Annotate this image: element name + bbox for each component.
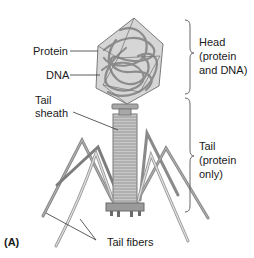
bracket-head-line2: (protein	[199, 50, 236, 62]
label-protein: Protein	[33, 45, 68, 57]
label-tail-sheath-line2: sheath	[35, 107, 68, 119]
baseplate	[106, 203, 144, 217]
label-tail-fibers: Tail fibers	[107, 236, 153, 248]
bracket-tail-line1: Tail	[199, 140, 216, 152]
bracket-head-line1: Head	[199, 36, 225, 48]
label-dna: DNA	[46, 69, 69, 81]
capsid-head	[96, 18, 163, 104]
panel-label: (A)	[4, 236, 19, 248]
bracket-tail-line3: only)	[199, 168, 223, 180]
tail-sheath	[113, 114, 137, 206]
collar	[112, 104, 138, 115]
bracket-head-line3: and DNA)	[199, 64, 247, 76]
bracket-tail-line2: (protein	[199, 154, 236, 166]
label-tail-sheath-line1: Tail	[35, 94, 52, 106]
